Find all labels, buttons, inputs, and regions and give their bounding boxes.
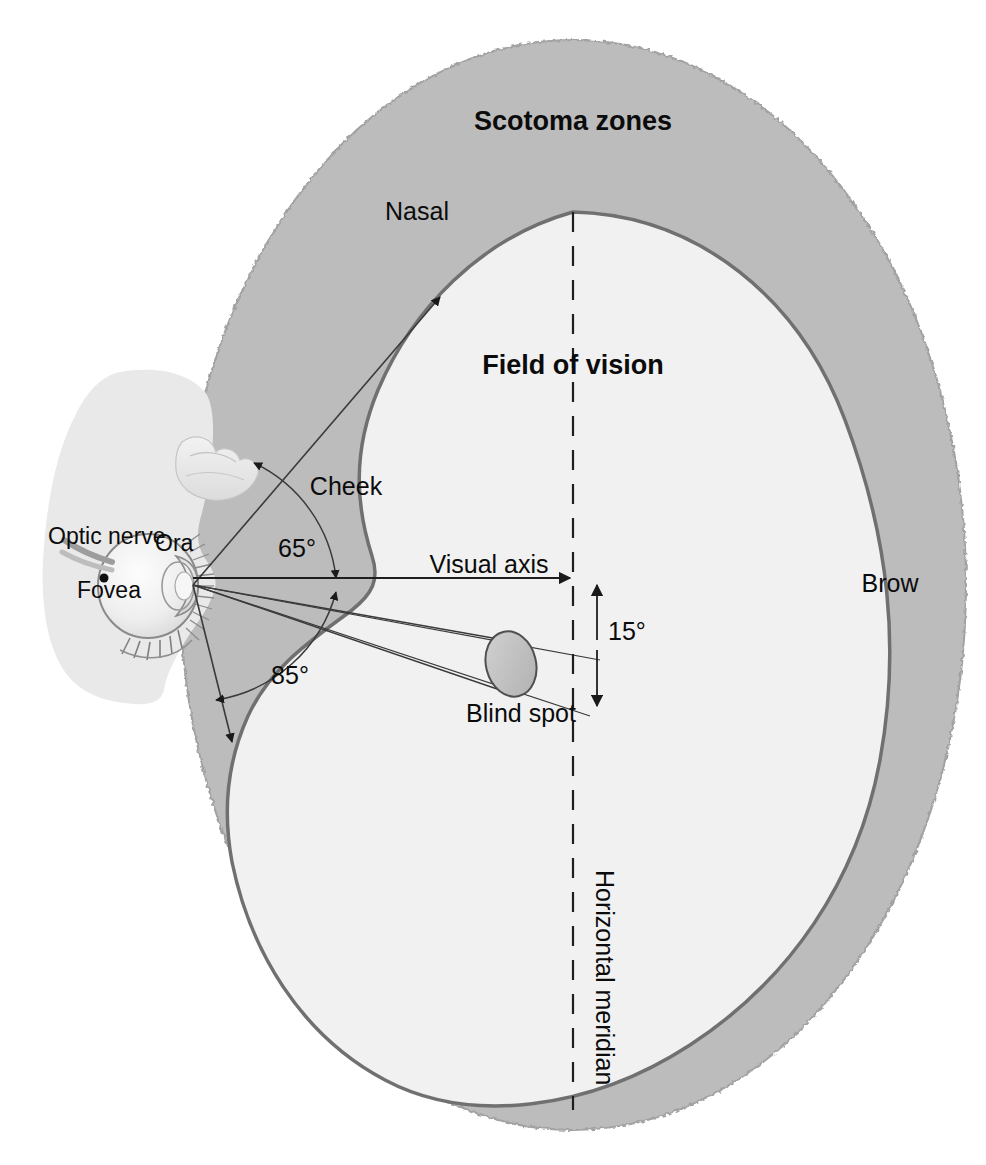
diagram-canvas: Scotoma zones Nasal Field of vision Chee… bbox=[0, 0, 986, 1165]
angle-65-label: 65° bbox=[278, 534, 316, 562]
cheek-label: Cheek bbox=[310, 472, 383, 500]
angle-85-label: 85° bbox=[271, 661, 309, 689]
ora-label: Ora bbox=[155, 530, 194, 556]
scotoma-zones-label: Scotoma zones bbox=[474, 106, 672, 136]
nasal-label: Nasal bbox=[385, 197, 449, 225]
lens bbox=[175, 572, 193, 600]
visual-axis-label: Visual axis bbox=[429, 550, 548, 578]
field-of-vision-diagram: Scotoma zones Nasal Field of vision Chee… bbox=[0, 0, 986, 1165]
field-of-vision-label: Field of vision bbox=[482, 350, 664, 380]
blind-spot-label: Blind spot bbox=[466, 699, 576, 727]
optic-nerve-label: Optic nerve bbox=[48, 523, 166, 549]
horizontal-meridian-label: Horizontal meridian bbox=[591, 870, 619, 1085]
brow-label: Brow bbox=[862, 569, 920, 597]
fovea-label: Fovea bbox=[77, 577, 141, 603]
angle-15-label: 15° bbox=[608, 617, 646, 645]
